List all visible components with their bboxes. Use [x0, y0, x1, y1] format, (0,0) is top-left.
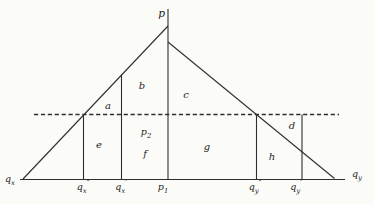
tick-label-qx-double-prime: qx″: [77, 179, 90, 195]
tick-label-p1: p1: [158, 181, 168, 195]
region-label-c: c: [183, 89, 189, 100]
price-axis-label: p: [158, 7, 165, 19]
region-label-h: h: [269, 151, 275, 162]
tick-label-qx-prime: qx′: [115, 179, 127, 195]
region-label-f: f: [142, 148, 149, 159]
region-label-d: d: [289, 120, 295, 131]
diagram-figure: p a b c d e f g h p2 qx″ qx′ p1 qy″ qy′: [0, 0, 374, 204]
tick-label-qy-double-prime: qy″: [249, 179, 262, 195]
point-label-p2: p2: [141, 126, 151, 140]
excess-burden-diagram: p a b c d e f g h p2 qx″ qx′ p1 qy″ qy′: [0, 0, 374, 204]
region-label-a: a: [105, 100, 111, 111]
x-axis-left-label: qx: [5, 173, 15, 187]
tick-label-qy-prime: qy′: [290, 179, 302, 195]
x-axis-right-label: qy: [352, 168, 362, 182]
region-label-g: g: [204, 141, 210, 152]
right-demand-line: [168, 42, 335, 179]
region-label-b: b: [139, 80, 145, 91]
region-label-e: e: [96, 139, 102, 150]
